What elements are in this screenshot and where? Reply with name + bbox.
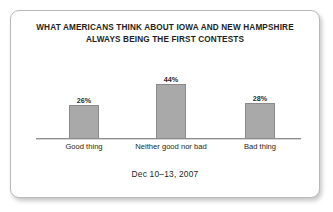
bar-good-thing[interactable] [69,105,99,139]
bar-value-label: 44% [144,75,198,84]
category-label-bad-thing: Bad thing [218,142,302,151]
bar-neither-good-nor-bad[interactable] [156,84,186,139]
bar-value-label: 26% [57,96,111,105]
category-label-good-thing: Good thing [42,142,126,151]
category-label-neither-good-nor-bad: Neither good nor bad [123,142,219,151]
bar-value-label: 28% [233,94,287,103]
chart-card: WHAT AMERICANS THINK ABOUT IOWA AND NEW … [10,10,320,198]
chart-caption: Dec 10–13, 2007 [11,169,319,179]
bar-bad-thing[interactable] [245,103,275,139]
